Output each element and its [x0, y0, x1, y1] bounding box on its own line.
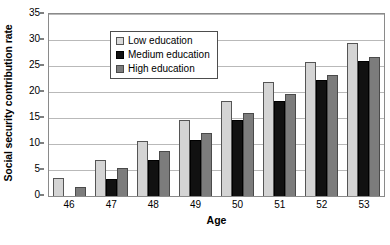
y-tick-label: 15	[29, 112, 40, 122]
bar-high-education-age-50	[243, 113, 254, 196]
bar-medium-education-age-48	[148, 160, 159, 196]
bar-low-education-age-53	[347, 43, 358, 196]
y-tick-mark	[40, 13, 44, 14]
x-axis-tick-labels: 4647484950515253	[48, 199, 385, 210]
y-tick-label: 30	[29, 34, 40, 44]
bar-chart-figure: Social security contribution rate 051015…	[0, 0, 390, 245]
bar-medium-education-age-53	[358, 61, 369, 196]
y-axis-title: Social security contribution rate	[0, 0, 16, 205]
bar-low-education-age-50	[221, 101, 232, 196]
bar-group-age-50	[217, 14, 259, 196]
legend-swatch-icon	[116, 51, 124, 59]
y-axis-title-text: Social security contribution rate	[2, 24, 14, 181]
y-tick-mark	[40, 91, 44, 92]
bar-medium-education-age-49	[190, 140, 201, 196]
bar-medium-education-age-50	[232, 120, 243, 196]
x-tick-label-46: 46	[48, 199, 90, 210]
legend-label: High education	[128, 63, 195, 75]
x-tick-label-49: 49	[174, 199, 216, 210]
bar-high-education-age-52	[327, 75, 338, 196]
bar-group-age-53	[342, 14, 384, 196]
y-tick-mark	[40, 169, 44, 170]
bar-low-education-age-47	[95, 160, 106, 196]
bar-group-age-46	[49, 14, 91, 196]
x-tick-label-53: 53	[343, 199, 385, 210]
bar-group-age-51	[258, 14, 300, 196]
bar-high-education-age-51	[285, 94, 296, 196]
x-tick-label-50: 50	[217, 199, 259, 210]
bar-low-education-age-51	[263, 82, 274, 196]
y-tick-label: 10	[29, 138, 40, 148]
legend-label: Low education	[128, 35, 193, 47]
bar-medium-education-age-52	[316, 80, 327, 196]
bar-low-education-age-52	[305, 62, 316, 196]
legend-label: Medium education	[128, 49, 210, 61]
bar-low-education-age-46	[53, 178, 64, 196]
y-tick-mark	[40, 65, 44, 66]
bar-low-education-age-48	[137, 141, 148, 196]
legend-entry-medium-education: Medium education	[116, 49, 210, 61]
y-tick-label: 35	[29, 8, 40, 18]
plot-area: Low educationMedium educationHigh educat…	[48, 13, 385, 197]
y-tick-mark	[40, 39, 44, 40]
x-tick-label-52: 52	[301, 199, 343, 210]
legend-swatch-icon	[116, 37, 124, 45]
bar-group-age-52	[300, 14, 342, 196]
x-axis-title: Age	[48, 214, 385, 226]
y-tick-mark	[40, 117, 44, 118]
legend-entry-low-education: Low education	[116, 35, 210, 47]
legend-swatch-icon	[116, 65, 124, 73]
y-tick-mark	[40, 143, 44, 144]
bar-high-education-age-47	[117, 168, 128, 196]
y-tick-label: 20	[29, 86, 40, 96]
x-tick-label-47: 47	[90, 199, 132, 210]
bar-high-education-age-53	[369, 57, 380, 196]
legend-entry-high-education: High education	[116, 63, 210, 75]
chart-legend: Low educationMedium educationHigh educat…	[110, 31, 218, 79]
y-tick-mark	[40, 195, 44, 196]
y-axis-tick-labels: 05101520253035	[18, 0, 44, 205]
bar-low-education-age-49	[179, 120, 190, 196]
bar-high-education-age-49	[201, 133, 212, 196]
bar-medium-education-age-47	[106, 179, 117, 196]
y-tick-label: 25	[29, 60, 40, 70]
bar-high-education-age-48	[159, 151, 170, 196]
bar-high-education-age-46	[75, 187, 86, 196]
x-tick-label-48: 48	[132, 199, 174, 210]
bar-medium-education-age-51	[274, 101, 285, 196]
x-tick-label-51: 51	[259, 199, 301, 210]
